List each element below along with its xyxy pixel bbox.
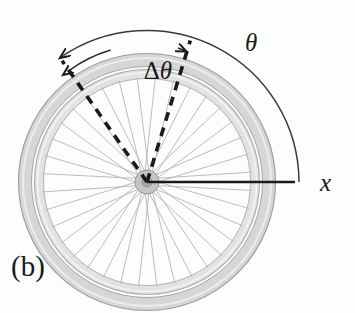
delta-theta-arc-right-segment (178, 48, 187, 52)
delta-theta-label: Δθ (120, 33, 172, 108)
theta-symbol-in-delta: θ (160, 57, 172, 84)
spoke (155, 172, 251, 178)
spoke (72, 108, 143, 174)
wheel-diagram-canvas (0, 0, 355, 313)
spoke (151, 190, 222, 256)
spoke (155, 186, 251, 191)
spoke (73, 190, 143, 257)
theta-label: θ (245, 30, 257, 55)
spoke (42, 186, 138, 192)
spoke (139, 191, 150, 287)
delta-symbol: Δ (144, 57, 160, 84)
x-axis-label: x (320, 170, 331, 195)
physics-figure-wheel-angular-displacement: Δθ θ x (b) (0, 0, 355, 313)
spoke (151, 107, 221, 174)
panel-label: (b) (11, 252, 45, 281)
spoke (42, 174, 138, 179)
